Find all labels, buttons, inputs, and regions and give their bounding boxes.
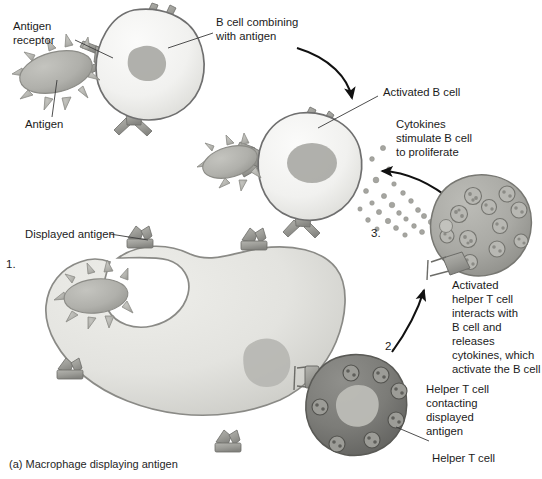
arrow-to-activated-b-cell xyxy=(297,48,352,98)
b-cell-combining-line2: with antigen xyxy=(215,30,276,42)
helper-t-contacting-line4: antigen xyxy=(426,425,463,437)
label-cytokines-stimulate: Cytokines stimulate B cell to proliferat… xyxy=(396,118,472,158)
cytokine-dots xyxy=(358,145,440,237)
antigen-particle xyxy=(197,133,261,191)
activated-helper-t-line1: Activated xyxy=(452,279,498,291)
step-number-1: 1. xyxy=(6,258,16,270)
cytokines-line2: stimulate B cell xyxy=(396,132,472,144)
displayed-antigen-icon xyxy=(241,228,267,250)
helper-t-contacting-line1: Helper T cell xyxy=(426,383,489,395)
step-number-2: 2. xyxy=(385,340,395,352)
helper-t-contacting-line2: contacting xyxy=(426,397,478,409)
antigen-receptor-line2: receptor xyxy=(13,34,55,46)
helper-t-cell-contacting xyxy=(294,355,407,456)
releasing-vesicle xyxy=(440,220,453,233)
b-cell-resting xyxy=(80,3,204,136)
displayed-antigen-icon xyxy=(215,430,241,452)
label-activated-b-cell: Activated B cell xyxy=(383,86,460,98)
immune-response-diagram: Antigen receptor Antigen B cell combinin… xyxy=(0,0,542,479)
activated-helper-t-line2: helper T cell xyxy=(452,293,513,305)
label-displayed-antigen: Displayed antigen xyxy=(25,228,115,240)
activated-helper-t-line6: cytokines, which xyxy=(452,349,534,361)
cytokines-line3: to proliferate xyxy=(396,146,459,158)
leader-helper-t-cell xyxy=(396,427,429,441)
macrophage xyxy=(46,226,345,452)
label-antigen: Antigen xyxy=(25,118,63,130)
label-b-cell-combining: B cell combining with antigen xyxy=(215,16,298,42)
step-number-3: 3. xyxy=(371,227,381,239)
figure-caption: (a) Macrophage displaying antigen xyxy=(9,458,178,470)
antigen-receptor-line1: Antigen xyxy=(13,20,51,32)
activated-helper-t-line7: activate the B cell xyxy=(452,363,541,375)
label-helper-t-contacting: Helper T cell contacting displayed antig… xyxy=(426,383,489,437)
macrophage-nucleus xyxy=(243,338,290,387)
label-antigen-receptor: Antigen receptor xyxy=(13,20,55,46)
activated-helper-t-line5: releases xyxy=(452,335,495,347)
t-cell-receptor-icon xyxy=(427,252,470,280)
leader-activated-b-cell xyxy=(318,96,378,128)
label-activated-helper-t: Activated helper T cell interacts with B… xyxy=(452,279,541,375)
cytokines-line1: Cytokines xyxy=(396,118,446,130)
arrow-to-activated-helper-t xyxy=(392,290,424,352)
label-helper-t-cell: Helper T cell xyxy=(432,452,495,464)
displayed-antigen-icon xyxy=(57,358,83,379)
activated-helper-t-line3: interacts with xyxy=(452,307,518,319)
activated-b-cell-nucleus xyxy=(287,143,337,183)
helper-t-nucleus xyxy=(336,385,379,427)
activated-helper-t-line4: B cell and xyxy=(452,321,502,333)
b-cell-nucleus xyxy=(128,46,166,81)
b-cell-combining-line1: B cell combining xyxy=(216,16,298,28)
helper-t-contacting-line3: displayed xyxy=(426,411,474,423)
helper-t-cell-activated xyxy=(427,175,531,280)
diagram-canvas: Antigen receptor Antigen B cell combinin… xyxy=(0,0,542,479)
